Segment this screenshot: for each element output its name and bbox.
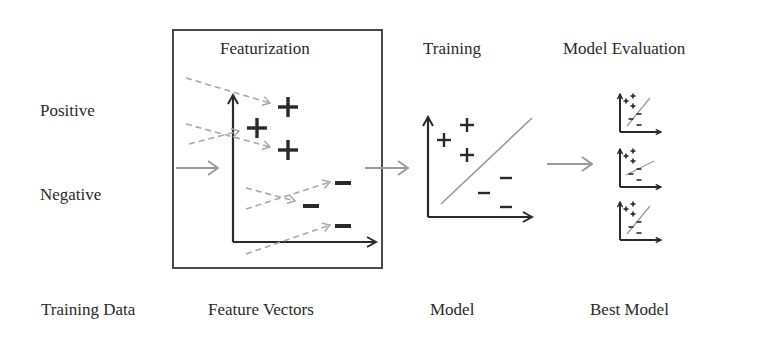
plus-symbol [624, 207, 629, 212]
decision-boundary [441, 118, 532, 204]
evaluation-mini-plot [620, 94, 661, 133]
evaluation-mini-plot [620, 202, 661, 241]
training-plot [428, 117, 532, 217]
plus-symbol [437, 133, 451, 147]
featurization-box [173, 30, 382, 268]
plus-symbol [278, 140, 298, 160]
plus-symbol [631, 159, 636, 164]
plus-symbol [631, 104, 636, 109]
featurization-axes [233, 95, 376, 242]
evaluation-models [620, 94, 661, 241]
plus-symbol [624, 154, 629, 159]
featurization-points [247, 97, 351, 226]
feature-mapping-arrows [186, 78, 330, 254]
plus-symbol [460, 118, 474, 132]
plus-symbol [631, 212, 636, 217]
plus-symbol [247, 118, 267, 138]
plus-symbol [631, 94, 636, 99]
plus-symbol [624, 99, 629, 104]
plus-symbol [460, 148, 474, 162]
plus-symbol [631, 149, 636, 154]
plus-symbol [631, 202, 636, 207]
pipeline-diagram [0, 0, 761, 350]
plus-symbol [278, 97, 298, 117]
evaluation-mini-plot [620, 149, 661, 188]
